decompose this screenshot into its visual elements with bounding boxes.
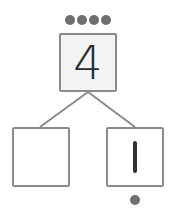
- part-right-value-one: [133, 141, 137, 173]
- counter-dot: [65, 15, 75, 25]
- counter-dot: [101, 15, 111, 25]
- counter-dot: [77, 15, 87, 25]
- counter-dot: [89, 15, 99, 25]
- part-right-counter-dot: [130, 195, 140, 205]
- part-box-right: [106, 127, 164, 187]
- whole-box: 4: [59, 33, 117, 92]
- whole-value: 4: [73, 36, 102, 90]
- part-box-left[interactable]: [12, 127, 70, 187]
